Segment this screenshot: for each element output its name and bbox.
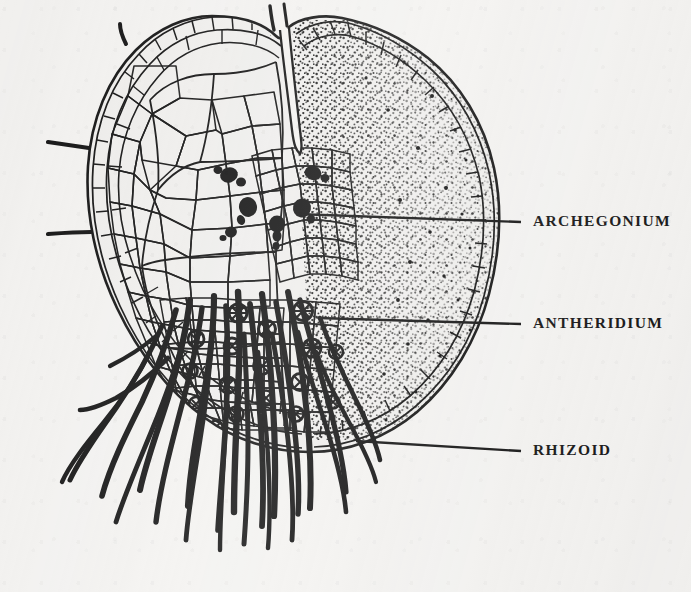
label-rhizoid[interactable]: RHIZOID bbox=[356, 441, 611, 458]
archegonium bbox=[236, 178, 246, 187]
label-text-rhizoid: RHIZOID bbox=[533, 441, 611, 458]
figure-root: ARCHEGONIUM ANTHERIDIUM RHIZOID bbox=[0, 0, 691, 592]
prothallus-diagram: ARCHEGONIUM ANTHERIDIUM RHIZOID bbox=[0, 0, 691, 592]
label-text-antheridium: ANTHERIDIUM bbox=[533, 314, 663, 331]
label-text-archegonium: ARCHEGONIUM bbox=[533, 212, 671, 229]
leader-line-rhizoid bbox=[356, 441, 521, 451]
